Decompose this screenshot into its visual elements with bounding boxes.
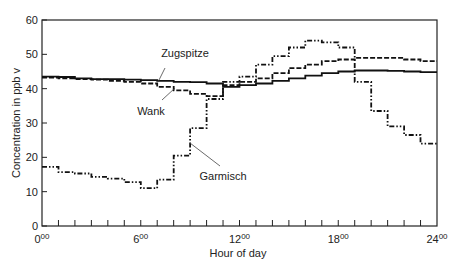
x-tick-label: 2400 (426, 232, 448, 245)
y-tick-label: 20 (26, 151, 38, 163)
y-tick-label: 60 (26, 14, 38, 26)
label-zugspitze: Zugspitze (161, 47, 209, 59)
y-tick-label: 0 (32, 220, 38, 232)
axes: 0102030405060000600120018002400 (26, 14, 448, 245)
concentration-chart: 0102030405060000600120018002400 Zugspitz… (0, 0, 458, 266)
x-tick-label: 1200 (229, 232, 251, 245)
y-tick-label: 40 (26, 83, 38, 95)
x-tick-label: 600 (133, 232, 149, 245)
series-garmisch (42, 41, 437, 189)
plot-frame (42, 20, 437, 226)
y-tick-label: 30 (26, 117, 38, 129)
y-axis-label: Concentration in ppb v (10, 67, 22, 178)
x-axis-label: Hour of day (210, 247, 267, 259)
series-lines (42, 41, 437, 189)
label-wank: Wank (137, 105, 165, 117)
label-garmisch: Garmisch (199, 170, 246, 182)
y-tick-label: 50 (26, 48, 38, 60)
x-tick-label: 000 (34, 232, 50, 245)
x-tick-label: 1800 (328, 232, 350, 245)
series-labels: ZugspitzeWankGarmisch (137, 47, 246, 182)
y-tick-label: 10 (26, 186, 38, 198)
